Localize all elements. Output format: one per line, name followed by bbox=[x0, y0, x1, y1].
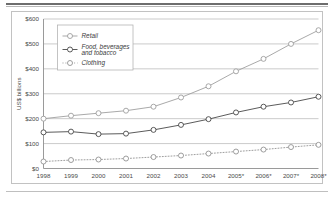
x-tick-label: 2004 bbox=[202, 172, 216, 179]
data-point-marker bbox=[289, 100, 294, 105]
data-point-marker bbox=[124, 156, 129, 161]
y-tick-label: $400 bbox=[25, 65, 39, 72]
x-tick-label: 1999 bbox=[64, 172, 78, 179]
data-point-marker bbox=[179, 153, 184, 158]
data-point-marker bbox=[41, 159, 46, 164]
data-point-marker bbox=[96, 111, 101, 116]
series-food bbox=[41, 94, 321, 136]
data-point-marker bbox=[234, 69, 239, 74]
legend-sample-marker bbox=[68, 61, 73, 66]
legend-label-continued: and tobacco bbox=[82, 49, 117, 56]
legend-label: Clothing bbox=[82, 59, 106, 67]
x-tick-label: 2000 bbox=[92, 172, 106, 179]
data-point-marker bbox=[124, 108, 129, 113]
y-tick-label: $300 bbox=[25, 90, 39, 97]
data-point-marker bbox=[69, 129, 74, 134]
data-point-marker bbox=[234, 149, 239, 154]
line-chart: $0$100$200$300$400$500$600 1998199920002… bbox=[0, 0, 334, 198]
data-point-marker bbox=[179, 95, 184, 100]
series-line bbox=[44, 97, 319, 134]
data-point-marker bbox=[316, 142, 321, 147]
x-axis-tick-labels: 19981999200020012002200320042005*2006*20… bbox=[37, 172, 328, 179]
data-point-marker bbox=[234, 110, 239, 115]
x-tick-label: 2003 bbox=[174, 172, 188, 179]
y-axis-tick-labels: $0$100$200$300$400$500$600 bbox=[25, 15, 39, 172]
x-tick-label: 1998 bbox=[37, 172, 51, 179]
y-tick-label: $100 bbox=[25, 140, 39, 147]
x-tick-label: 2001 bbox=[119, 172, 133, 179]
legend-sample-marker bbox=[68, 47, 73, 52]
data-point-marker bbox=[261, 104, 266, 109]
data-point-marker bbox=[41, 116, 46, 121]
data-point-marker bbox=[261, 56, 266, 61]
y-tick-label: $200 bbox=[25, 115, 39, 122]
data-point-marker bbox=[179, 122, 184, 127]
figure-root: $0$100$200$300$400$500$600 1998199920002… bbox=[0, 0, 334, 198]
x-tick-label: 2005* bbox=[228, 172, 245, 179]
x-tick-label: 2006* bbox=[255, 172, 272, 179]
data-point-marker bbox=[96, 132, 101, 137]
data-point-marker bbox=[289, 145, 294, 150]
legend-label: Retail bbox=[82, 32, 99, 39]
series-clothing bbox=[41, 142, 321, 164]
x-tick-label: 2002 bbox=[147, 172, 161, 179]
data-point-marker bbox=[289, 41, 294, 46]
data-point-marker bbox=[69, 158, 74, 163]
x-tick-label: 2007* bbox=[283, 172, 300, 179]
data-point-marker bbox=[41, 130, 46, 135]
x-tick-label: 2008* bbox=[310, 172, 327, 179]
y-axis-title: US$ billions bbox=[15, 77, 22, 110]
data-point-marker bbox=[124, 131, 129, 136]
data-point-marker bbox=[151, 155, 156, 160]
data-point-marker bbox=[316, 94, 321, 99]
data-point-marker bbox=[206, 84, 211, 89]
data-point-marker bbox=[316, 28, 321, 33]
data-point-marker bbox=[261, 147, 266, 152]
data-point-marker bbox=[206, 151, 211, 156]
data-point-marker bbox=[151, 127, 156, 132]
legend-sample-marker bbox=[68, 34, 73, 39]
data-point-marker bbox=[151, 104, 156, 109]
data-point-marker bbox=[206, 117, 211, 122]
chart-legend: RetailFood, beveragesand tobaccoClothing bbox=[58, 25, 134, 70]
data-point-marker bbox=[96, 157, 101, 162]
y-axis-title-text: US$ billions bbox=[15, 77, 22, 110]
y-tick-label: $0 bbox=[32, 165, 39, 172]
y-tick-label: $500 bbox=[25, 40, 39, 47]
y-tick-label: $600 bbox=[25, 15, 39, 22]
data-point-marker bbox=[69, 113, 74, 118]
